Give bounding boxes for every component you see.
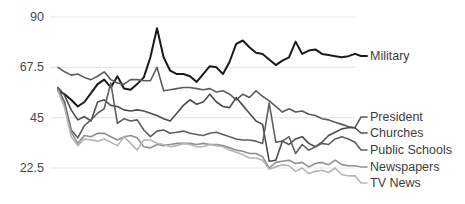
y-axis-tick-label: 67.5: [0, 61, 44, 74]
legend-connector: [355, 128, 367, 133]
series-label-churches: Churches: [370, 127, 424, 140]
y-axis-tick-label: 22.5: [0, 162, 44, 175]
series-label-military: Military: [370, 50, 410, 63]
line-chart: 9067.54522.5 MilitaryPresidentChurchesPu…: [0, 0, 465, 204]
y-axis-tick-label: 90: [0, 11, 44, 24]
series-label-president: President: [370, 111, 423, 124]
gridlines: [50, 17, 355, 168]
series-label-tv-news: TV News: [370, 177, 421, 190]
series-line: [58, 83, 355, 153]
series-line: [58, 87, 355, 161]
legend-connector: [355, 166, 367, 167]
series-lines: [58, 28, 355, 176]
y-axis-tick-label: 45: [0, 112, 44, 125]
legend-connector: [355, 142, 367, 150]
legend-connector: [355, 176, 367, 183]
legend-connector: [355, 54, 367, 56]
legend-connectors: [355, 54, 367, 183]
series-label-public-schools: Public Schools: [370, 144, 452, 157]
legend-connector: [355, 117, 367, 128]
series-label-newspapers: Newspapers: [370, 161, 439, 174]
series-line: [58, 90, 355, 168]
